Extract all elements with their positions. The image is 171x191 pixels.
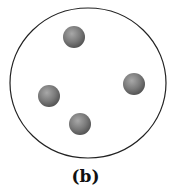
particle-sphere — [69, 113, 91, 135]
figure-label: (b) — [0, 166, 171, 186]
particle-sphere — [38, 85, 60, 107]
particle-sphere — [123, 73, 145, 95]
particle-sphere — [63, 26, 85, 48]
particles-group — [38, 26, 145, 135]
diagram-canvas — [0, 0, 171, 191]
